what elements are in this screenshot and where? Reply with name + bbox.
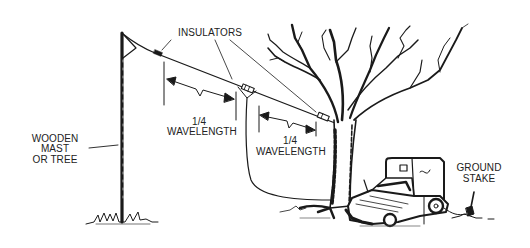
- insulator-left: [154, 50, 163, 57]
- label-ground-line2: STAKE: [455, 174, 503, 184]
- label-ground-line1: GROUND: [455, 163, 503, 173]
- insulator-right: [317, 112, 329, 121]
- mast-callout: [89, 145, 118, 148]
- wooden-mast: [122, 33, 136, 222]
- label-quarter-wave-left-text: WAVELENGTH: [167, 127, 237, 137]
- label-mast-line2: MAST: [31, 144, 79, 154]
- dimension-right: [259, 106, 316, 136]
- label-quarter-wave-right-fraction: 1/4: [283, 136, 297, 146]
- label-mast-line3: OR TREE: [31, 155, 79, 165]
- label-insulators: INSULATORS: [178, 28, 242, 38]
- insulator-callouts: [162, 40, 316, 112]
- label-quarter-wave-right-text: WAVELENGTH: [256, 147, 326, 157]
- diagram-drawing: [0, 0, 530, 248]
- vehicle: [346, 158, 466, 226]
- antenna-diagram: INSULATORS 1/4 WAVELENGTH 1/4 WAVELENGTH…: [0, 0, 530, 248]
- antenna-wire: [123, 34, 335, 123]
